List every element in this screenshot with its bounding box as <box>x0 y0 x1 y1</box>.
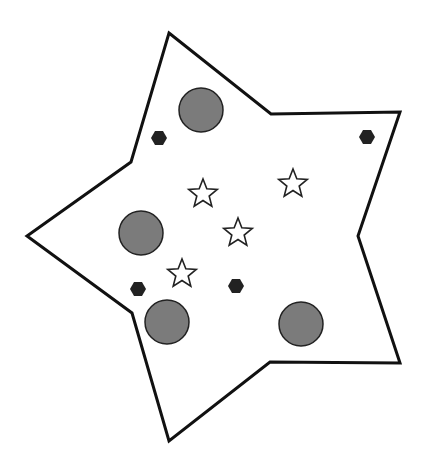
gray-circle <box>179 88 223 132</box>
shape-diagram <box>0 0 426 472</box>
gray-circle <box>279 302 323 346</box>
background <box>0 0 426 472</box>
gray-circle <box>119 211 163 255</box>
gray-circle <box>145 300 189 344</box>
